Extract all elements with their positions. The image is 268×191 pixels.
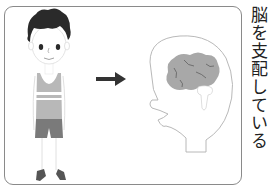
shirt-stripe	[36, 98, 62, 100]
right-ear	[65, 42, 70, 50]
arrow-right-icon	[96, 72, 126, 86]
face	[32, 26, 66, 64]
illustration	[0, 0, 268, 191]
right-shoe	[56, 169, 66, 180]
shirt-stripe	[36, 92, 62, 95]
left-shoe	[36, 169, 46, 181]
left-ear	[29, 42, 34, 50]
brain	[166, 53, 219, 91]
head-profile	[150, 36, 233, 152]
right-eye	[56, 44, 60, 50]
caption-vertical-text: 脳を支配している	[249, 6, 267, 150]
tank-top	[36, 73, 62, 119]
left-arm	[33, 76, 35, 130]
head-outline	[150, 36, 233, 152]
boy-figure	[27, 8, 70, 181]
left-eye	[39, 44, 43, 50]
right-arm	[63, 76, 65, 130]
shorts	[35, 119, 63, 138]
